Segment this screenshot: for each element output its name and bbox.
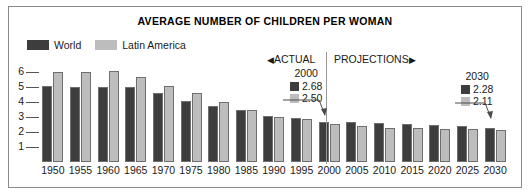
x-axis-label-2015: 2015 (398, 164, 426, 176)
bar-1950-latin-america (53, 72, 63, 162)
bar-group-2010 (371, 64, 399, 162)
x-axis-label-2000: 2000 (315, 164, 343, 176)
projections-label: PROJECTIONS (334, 53, 409, 65)
bar-1985-latin-america (247, 110, 257, 162)
y-tick-6: 6 (0, 72, 39, 73)
y-tick-mark (26, 147, 39, 148)
bar-1975-latin-america (192, 93, 202, 162)
bar-group-2005 (343, 64, 371, 162)
y-tick-4: 4 (0, 102, 39, 103)
x-axis-label-2010: 2010 (371, 164, 399, 176)
callout-2000-year: 2000 (290, 67, 322, 79)
y-tick-label: 1 (18, 140, 24, 153)
bar-1990-world (263, 116, 273, 162)
y-tick-3: 3 (0, 117, 39, 118)
y-tick-1: 1 (0, 147, 39, 148)
bar-group-1970 (150, 64, 178, 162)
bar-group-1950 (39, 64, 67, 162)
callout-2030-latin-value: 2.11 (473, 95, 493, 107)
bar-1960-world (98, 87, 108, 162)
chart-title: AVERAGE NUMBER OF CHILDREN PER WOMAN (9, 15, 521, 27)
callout-swatch-latin-america-icon (461, 97, 470, 106)
bar-2025-latin-america (468, 129, 478, 162)
y-tick-mark (26, 102, 39, 103)
bar-group-1990 (260, 64, 288, 162)
y-axis: 123456 (0, 64, 39, 162)
bar-group-1955 (67, 64, 95, 162)
legend-swatch-latin-america-icon (95, 40, 117, 50)
callout-2030: 2030 2.28 2.11 (461, 70, 493, 107)
bar-2015-world (402, 124, 412, 162)
y-tick-mark (26, 87, 39, 88)
actual-section-header: ◀ACTUAL (267, 53, 315, 65)
bar-group-1965 (122, 64, 150, 162)
chart-frame: AVERAGE NUMBER OF CHILDREN PER WOMAN Wor… (8, 6, 522, 188)
legend-label-world: World (54, 39, 81, 51)
bar-group-1985 (232, 64, 260, 162)
bar-2030-world (485, 128, 495, 162)
bar-1980-latin-america (219, 102, 229, 162)
bar-2005-latin-america (357, 126, 367, 162)
bar-1990-latin-america (274, 117, 284, 162)
callout-2000-world-row: 2.68 (290, 80, 322, 92)
y-tick-mark (26, 117, 39, 118)
y-tick-label: 3 (18, 110, 24, 123)
bar-2010-world (374, 123, 384, 162)
legend-item-world: World (27, 39, 81, 51)
bar-group-1980 (205, 64, 233, 162)
bar-1955-world (70, 87, 80, 162)
bar-1970-latin-america (164, 86, 174, 162)
actual-projections-divider (326, 52, 327, 164)
callout-swatch-world-icon (290, 82, 299, 91)
bar-groups (39, 64, 509, 162)
bar-1960-latin-america (109, 71, 119, 162)
x-axis-label-1955: 1955 (67, 164, 95, 176)
bar-2015-latin-america (413, 128, 423, 162)
bar-1955-latin-america (81, 72, 91, 162)
bar-1975-world (181, 101, 191, 162)
bar-group-1975 (177, 64, 205, 162)
x-axis-label-1965: 1965 (122, 164, 150, 176)
callout-swatch-world-icon (461, 85, 470, 94)
x-axis-label-1990: 1990 (260, 164, 288, 176)
left-arrow-icon: ◀ (267, 55, 274, 65)
callout-swatch-latin-america-icon (290, 94, 299, 103)
x-axis-label-1960: 1960 (94, 164, 122, 176)
bar-1970-world (153, 93, 163, 162)
chart-legend: World Latin America (27, 39, 186, 51)
bar-2000-world (319, 122, 329, 162)
bar-2010-latin-america (385, 128, 395, 162)
bar-1965-latin-america (136, 77, 146, 162)
callout-2000-latin-row: 2.50 (290, 92, 322, 104)
plot-area (39, 64, 509, 162)
legend-swatch-world-icon (27, 40, 49, 50)
bar-1980-world (208, 106, 218, 162)
callout-2030-world-value: 2.28 (473, 83, 493, 95)
callout-2000-world-value: 2.68 (302, 80, 322, 92)
x-axis-label-1985: 1985 (232, 164, 260, 176)
callout-2030-year: 2030 (461, 70, 493, 82)
y-tick-label: 4 (18, 95, 24, 108)
callout-2030-latin-row: 2.11 (461, 95, 493, 107)
bar-2030-latin-america (496, 130, 506, 162)
y-tick-mark (26, 72, 39, 73)
x-axis-label-2005: 2005 (343, 164, 371, 176)
bar-1985-world (236, 110, 246, 162)
bar-2025-world (457, 126, 467, 162)
bar-1995-latin-america (302, 119, 312, 162)
actual-label: ACTUAL (274, 53, 315, 65)
y-tick-label: 5 (18, 80, 24, 93)
bar-2020-latin-america (440, 129, 450, 162)
x-axis-label-2030: 2030 (481, 164, 509, 176)
right-arrow-icon: ▶ (409, 55, 416, 65)
y-tick-5: 5 (0, 87, 39, 88)
callout-2000-latin-value: 2.50 (302, 92, 322, 104)
x-axis-label-1970: 1970 (150, 164, 178, 176)
y-tick-mark (26, 132, 39, 133)
bar-1965-world (125, 87, 135, 162)
x-axis-label-1975: 1975 (177, 164, 205, 176)
x-axis-label-2020: 2020 (426, 164, 454, 176)
x-axis-label-1995: 1995 (288, 164, 316, 176)
callout-2030-world-row: 2.28 (461, 83, 493, 95)
bar-group-2020 (426, 64, 454, 162)
